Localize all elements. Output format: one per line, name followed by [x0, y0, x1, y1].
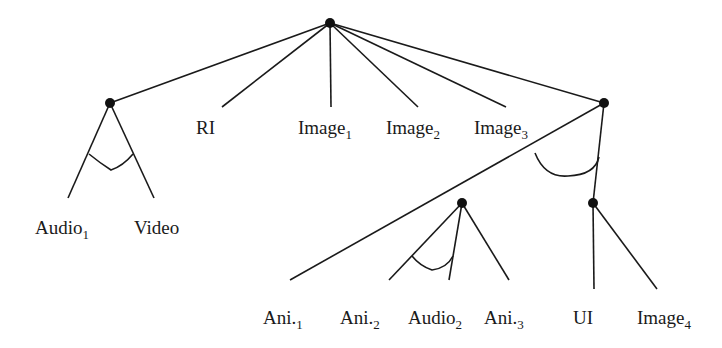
- label-audio2: Audio2: [408, 308, 462, 327]
- edge-root-left: [110, 23, 330, 103]
- edge-left-video: [110, 103, 154, 198]
- label-ui: UI: [573, 308, 593, 327]
- node-right: [599, 98, 609, 108]
- edge-uinode-ui: [593, 203, 594, 289]
- edge-root-image1: [330, 23, 331, 107]
- edge-uinode-image4: [593, 203, 657, 289]
- label-ani3: Ani.3: [484, 308, 524, 327]
- edge-root-image3: [330, 23, 506, 107]
- label-image2: Image2: [386, 118, 440, 137]
- node-left: [105, 98, 115, 108]
- tree-edges: [0, 0, 722, 348]
- edge-root-ri: [222, 23, 330, 107]
- label-image4: Image4: [637, 308, 691, 327]
- label-audio1: Audio1: [35, 218, 89, 237]
- edge-mid-ani3: [462, 203, 509, 280]
- label-video: Video: [134, 218, 179, 237]
- label-ri: RI: [196, 118, 215, 137]
- label-ani1: Ani.1: [263, 308, 303, 327]
- node-ui: [588, 198, 598, 208]
- node-root: [325, 18, 335, 28]
- and-arc-mid: [412, 256, 453, 270]
- and-arc-right: [535, 153, 599, 176]
- label-image3: Image3: [474, 118, 528, 137]
- and-or-tree-diagram: Audio1 Video RI Image1 Image2 Image3 Ani…: [0, 0, 722, 348]
- node-mid: [457, 198, 467, 208]
- and-arc-left: [89, 154, 133, 170]
- edge-right-uinode: [593, 103, 604, 203]
- label-ani2: Ani.2: [340, 308, 380, 327]
- edge-left-audio1: [68, 103, 110, 198]
- label-image1: Image1: [298, 118, 352, 137]
